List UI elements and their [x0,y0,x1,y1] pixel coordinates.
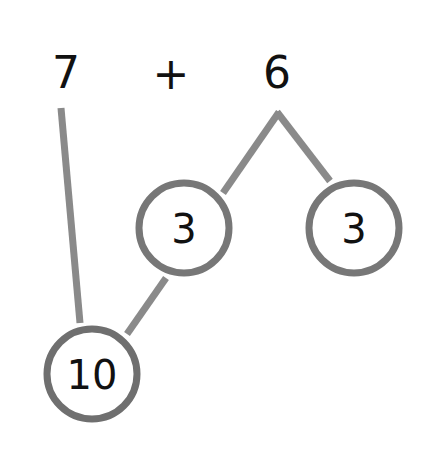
diagram-canvas: 7 + 6 3 3 10 [0,0,431,464]
split-left-value: 3 [171,206,196,252]
connector-6-to-left-3 [223,112,279,193]
connector-3-to-10 [127,278,166,334]
left-operand: 7 [52,47,80,98]
split-right-value: 3 [341,206,366,252]
connector-7-to-10 [61,108,80,323]
make-ten-value: 10 [67,352,118,398]
operator-plus: + [153,48,190,99]
right-operand: 6 [263,47,291,98]
connector-6-to-right-3 [277,112,330,181]
number-bond-diagram: 7 + 6 3 3 10 [0,0,431,464]
